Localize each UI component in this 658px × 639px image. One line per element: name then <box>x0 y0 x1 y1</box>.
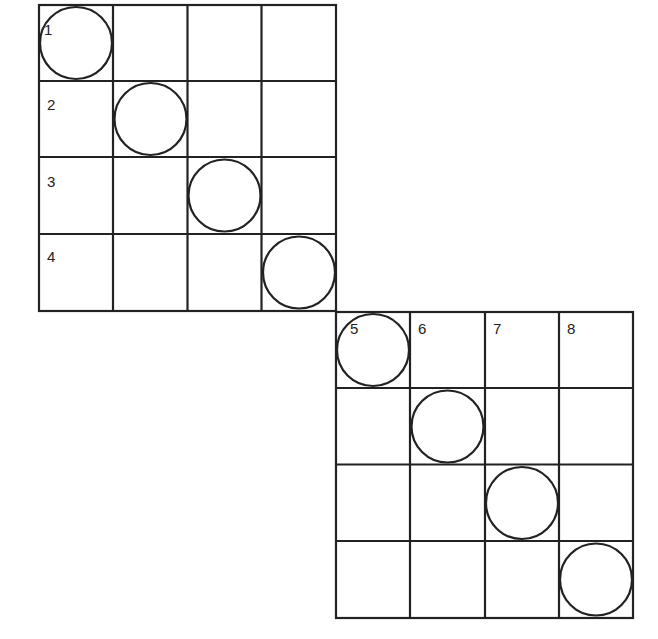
circle-5 <box>337 314 409 386</box>
label-5: 5 <box>350 321 358 336</box>
circle-3 <box>189 160 261 232</box>
label-2: 2 <box>47 97 55 112</box>
label-8: 8 <box>567 321 575 336</box>
label-4: 4 <box>47 249 55 264</box>
grid-1-lines <box>38 4 338 312</box>
grid-2-lines <box>335 311 635 619</box>
label-6: 6 <box>418 321 426 336</box>
label-1: 1 <box>44 22 52 37</box>
label-3: 3 <box>47 174 55 189</box>
circle-1 <box>40 7 112 79</box>
grid-lower-right: 5 6 7 8 <box>335 311 633 618</box>
circle-4 <box>263 237 335 309</box>
circle-7 <box>486 467 558 539</box>
label-7: 7 <box>493 321 501 336</box>
circle-6 <box>412 391 484 463</box>
circle-2 <box>115 83 187 155</box>
circle-8 <box>560 544 632 616</box>
grid-upper-left: 1 2 3 4 <box>38 4 336 311</box>
